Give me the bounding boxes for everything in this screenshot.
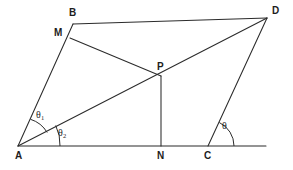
vertex-label-p: P	[157, 62, 164, 72]
vertex-label-m: M	[54, 28, 63, 38]
vertex-label-b: B	[69, 8, 76, 18]
angle-arc-theta1	[31, 119, 48, 132]
theta1-subscript: 1	[41, 114, 44, 121]
theta2-subscript: 2	[63, 132, 66, 139]
angle-label-theta1: θ1	[36, 110, 44, 120]
angle-label-theta: θ	[222, 121, 227, 131]
vertex-label-d: D	[272, 6, 279, 16]
angle-label-theta2: θ2	[58, 128, 66, 138]
segment-mp	[70, 38, 161, 76]
segment-bd	[73, 18, 267, 24]
geometry-figure: A B D C M N P θ1 θ2 θ	[0, 0, 293, 170]
geometry-canvas	[0, 0, 293, 170]
segment-cd	[208, 18, 267, 146]
vertex-label-a: A	[15, 151, 22, 161]
vertex-label-n: N	[157, 151, 164, 161]
vertex-label-c: C	[204, 151, 211, 161]
